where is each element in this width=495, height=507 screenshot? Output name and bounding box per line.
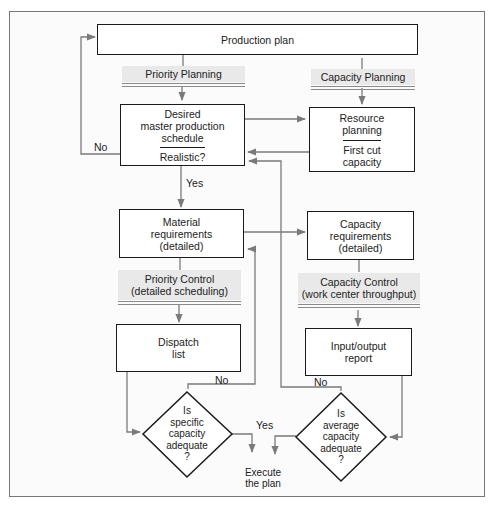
average-line-5: ? — [338, 454, 344, 466]
edge-label-no-specific: No — [215, 374, 228, 386]
average-line-1: Is — [337, 408, 345, 420]
edge-label-yes-bottom: Yes — [256, 419, 273, 431]
specific-line-4: adequate — [166, 440, 208, 452]
capacity-control-band: Capacity Control (work center throughput… — [298, 273, 420, 303]
priority-planning-band: Priority Planning — [122, 66, 245, 82]
mps-line-3: schedule — [161, 132, 203, 144]
execute-line-1: Execute — [245, 467, 281, 479]
io-line-2: report — [345, 352, 372, 364]
realistic-check-label: Realistic? — [160, 151, 206, 163]
average-line-4: adequate — [320, 443, 362, 455]
capacity-req-line-1: Capacity — [340, 218, 381, 230]
specific-line-1: Is — [183, 405, 191, 417]
material-line-3: (detailed) — [160, 240, 204, 252]
resource-planning-box: Resource planning First cut capacity — [309, 107, 415, 172]
specific-line-2: specific — [170, 417, 203, 429]
resource-planning-line-1: Resource — [340, 112, 385, 124]
mps-line-2: master production — [140, 120, 224, 132]
first-cut-line-2: capacity — [343, 156, 382, 168]
capacity-req-line-3: (detailed) — [339, 242, 383, 254]
dispatch-line-2: list — [172, 348, 185, 360]
average-line-2: average — [323, 420, 359, 432]
capacity-control-line-2: (work center throughput) — [302, 288, 416, 300]
edge-label-no-left: No — [94, 141, 107, 153]
material-requirements-box: Material requirements (detailed) — [119, 209, 244, 258]
priority-control-band: Priority Control (detailed scheduling) — [118, 270, 241, 300]
execute-line-2: the plan — [245, 478, 281, 490]
dispatch-line-1: Dispatch — [158, 336, 199, 348]
io-line-1: Input/output — [331, 340, 386, 352]
specific-capacity-decision: Is specific capacity adequate ? — [152, 404, 222, 464]
connectors — [0, 0, 495, 507]
material-line-1: Material — [163, 216, 200, 228]
edge-label-yes-mid: Yes — [186, 177, 203, 189]
priority-control-line-1: Priority Control — [145, 273, 214, 285]
production-plan-label: Production plan — [221, 34, 294, 46]
capacity-req-line-2: requirements — [330, 230, 391, 242]
material-line-2: requirements — [151, 228, 212, 240]
capacity-requirements-box: Capacity requirements (detailed) — [307, 211, 414, 260]
mps-line-1: Desired — [164, 108, 200, 120]
edge-label-no-average: No — [314, 376, 327, 388]
execute-the-plan-terminal: Execute the plan — [233, 464, 293, 492]
average-line-3: capacity — [323, 431, 360, 443]
resource-planning-line-2: planning — [342, 124, 382, 136]
master-production-schedule-box: Desired master production schedule Reali… — [120, 104, 245, 166]
capacity-planning-label: Capacity Planning — [321, 71, 406, 83]
average-capacity-decision: Is average capacity adequate ? — [306, 407, 376, 467]
capacity-planning-band: Capacity Planning — [311, 69, 415, 85]
input-output-report-box: Input/output report — [305, 328, 412, 376]
dispatch-list-box: Dispatch list — [116, 324, 241, 372]
capacity-control-line-1: Capacity Control — [320, 276, 398, 288]
specific-line-3: capacity — [169, 428, 206, 440]
first-cut-line-1: First cut — [343, 144, 380, 156]
priority-control-line-2: (detailed scheduling) — [131, 285, 228, 297]
specific-line-5: ? — [184, 451, 190, 463]
priority-planning-label: Priority Planning — [145, 68, 221, 80]
production-plan-box: Production plan — [97, 24, 418, 55]
